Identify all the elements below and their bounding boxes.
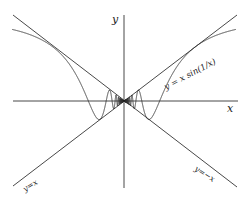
line-neg-label: y=−x	[192, 164, 217, 185]
y-axis-label: y	[111, 13, 119, 26]
x-axis-label: x	[227, 102, 234, 115]
plot-canvas: y x y = x sin(1/x) y=x y=−x	[0, 0, 251, 203]
curve-label: y = x sin(1/x)	[161, 56, 217, 92]
line-pos-label: y=x	[20, 177, 39, 194]
diagram: y x y = x sin(1/x) y=x y=−x	[0, 0, 251, 203]
